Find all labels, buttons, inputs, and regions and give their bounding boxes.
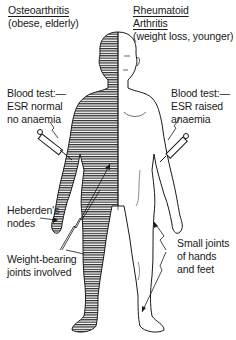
label-small-3: and feet [177, 263, 214, 276]
label-blood-left-3: no anaemia [7, 113, 61, 126]
label-blood-left-1: Blood test:— [7, 87, 66, 100]
label-blood-left-2: ESR normal [7, 100, 63, 113]
body-figure [0, 0, 236, 340]
label-small-2: of hands [177, 250, 216, 263]
label-heberden-1: Heberden's [7, 204, 59, 217]
title-osteoarthritis: Osteoarthritis [8, 4, 69, 17]
subtitle-osteoarthritis: (obese, elderly) [8, 17, 79, 30]
title-rheumatoid-line2: Arthritis [133, 17, 168, 30]
body-left-half-hatched [52, 32, 118, 332]
title-rheumatoid-line1: Rheumatoid [133, 4, 189, 17]
body-right-half-plain [118, 32, 182, 332]
label-blood-right-1: Blood test:— [171, 87, 230, 100]
subtitle-rheumatoid: (weight loss, younger) [133, 30, 234, 43]
label-blood-right-2: ESR raised [171, 100, 223, 113]
label-heberden-2: nodes [7, 217, 35, 230]
label-blood-right-3: anaemia [171, 113, 211, 126]
label-small-1: Small joints [177, 237, 230, 250]
label-weight-2: joints involved [7, 266, 71, 279]
label-weight-1: Weight-bearing [7, 253, 77, 266]
